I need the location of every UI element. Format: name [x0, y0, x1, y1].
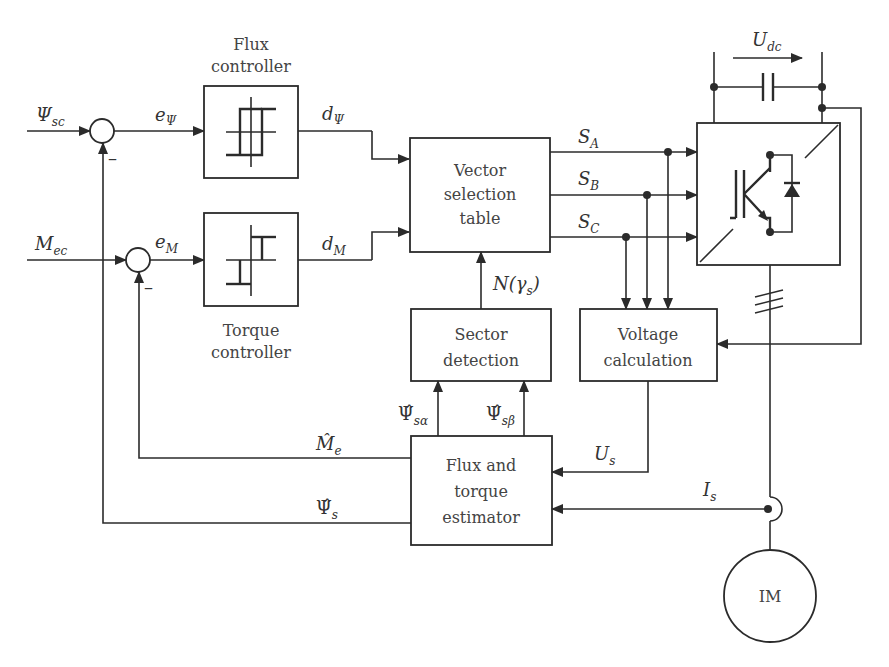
us-label: Us [594, 443, 615, 468]
svg-text:controller: controller [211, 57, 291, 76]
svg-text:IM: IM [759, 587, 782, 606]
torque-minus-sign: – [144, 277, 153, 298]
psi-s-alpha-label: Ψ̂sα [398, 403, 428, 428]
svg-text:detection: detection [443, 351, 519, 370]
sb-label: SB [578, 168, 599, 193]
psi-sc-label: Ψsc [36, 104, 65, 129]
torque-controller-block: Torque controller [204, 213, 298, 362]
psi-s-hat-label: Ψ̂s [316, 497, 338, 522]
svg-text:Voltage: Voltage [617, 325, 679, 344]
d-m-label: dM [322, 233, 347, 258]
svg-text:Torque: Torque [223, 321, 280, 340]
m-ec-label: Mec [34, 233, 68, 258]
e-psi-label: eΨ [155, 104, 177, 128]
flux-torque-estimator-block: Flux and torque estimator [411, 436, 552, 545]
svg-text:table: table [460, 209, 501, 228]
flux-controller-block: Flux controller [204, 35, 298, 178]
flux-summing-junction [90, 119, 114, 143]
d-psi-wire-b [372, 131, 409, 159]
is-label: Is [702, 479, 716, 504]
e-m-label: eM [155, 231, 179, 256]
svg-text:estimator: estimator [442, 508, 520, 527]
induction-motor: IM [724, 550, 816, 642]
m-e-hat-label: M̂e [315, 433, 342, 458]
torque-reference-input: Mec [27, 233, 126, 260]
svg-text:torque: torque [454, 482, 508, 501]
sa-label: SA [578, 126, 599, 151]
n-gamma-label: N(γs) [492, 273, 540, 298]
d-psi-label: dΨ [322, 103, 345, 127]
d-m-wire-b [372, 232, 409, 260]
svg-text:selection: selection [444, 185, 517, 204]
sector-detection-block: Sector detection [411, 309, 551, 381]
svg-text:calculation: calculation [603, 351, 692, 370]
svg-text:controller: controller [211, 343, 291, 362]
psi-s-beta-label: Ψ̂sβ [486, 403, 515, 428]
svg-text:Vector: Vector [453, 161, 507, 180]
udc-label: Udc [752, 29, 782, 54]
sc-label: SC [578, 211, 600, 236]
flux-reference-input: Ψsc [27, 104, 90, 131]
vector-selection-table-block: Vector selection table [410, 138, 550, 252]
capacitor-icon [763, 73, 773, 101]
flux-minus-sign: – [108, 148, 117, 169]
svg-text:Flux: Flux [233, 35, 269, 54]
dtc-block-diagram: Ψsc – eΨ Flux controller dΨ Mec – eM [0, 0, 889, 667]
three-phase-icon [755, 290, 783, 313]
inverter-block [697, 123, 840, 265]
voltage-calculation-block: Voltage calculation [580, 309, 717, 381]
torque-summing-junction [126, 248, 150, 272]
svg-text:Sector: Sector [454, 325, 507, 344]
svg-text:Flux and: Flux and [446, 456, 517, 475]
